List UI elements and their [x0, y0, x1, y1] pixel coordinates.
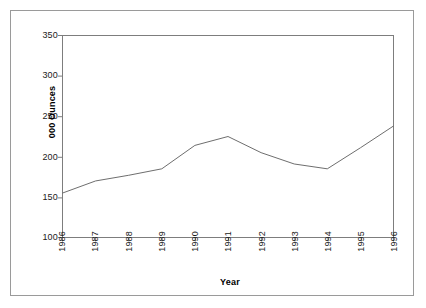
x-tick-1993: 1993 [290, 231, 300, 265]
x-tick-1986: 1986 [57, 231, 67, 265]
chart-page: 350 300 250 200 150 100 000 Ounces 1986 … [0, 0, 426, 308]
x-tick-1988: 1988 [124, 231, 134, 265]
x-tick-1995: 1995 [356, 231, 366, 265]
x-tick-1994: 1994 [323, 231, 333, 265]
x-axis-title: Year [150, 277, 310, 287]
x-tick-1996: 1996 [389, 231, 399, 265]
x-tick-1990: 1990 [190, 231, 200, 265]
x-tick-1991: 1991 [223, 231, 233, 265]
x-axis-tick-labels: 1986 1987 1988 1989 1990 1991 1992 1993 … [0, 0, 426, 308]
x-tick-1989: 1989 [157, 231, 167, 265]
x-tick-1987: 1987 [90, 231, 100, 265]
x-tick-1992: 1992 [257, 231, 267, 265]
